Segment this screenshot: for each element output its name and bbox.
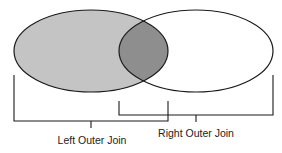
right-outer-join-label: Right Outer Join — [158, 127, 234, 139]
outer-join-venn-diagram: Left Outer Join Right Outer Join — [0, 0, 282, 153]
left-outer-join-label: Left Outer Join — [58, 134, 127, 146]
